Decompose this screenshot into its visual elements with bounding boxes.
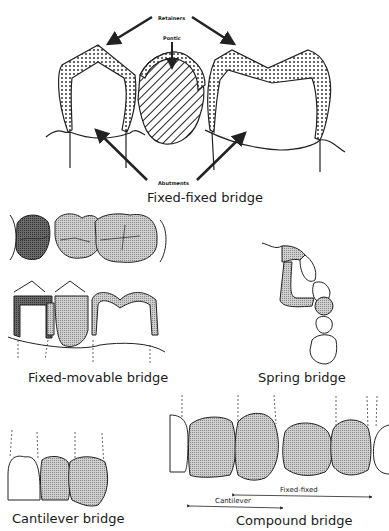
fixed-movable-occlusal-figure — [10, 214, 166, 263]
pontic-label: Pontic — [163, 35, 181, 41]
fixed-movable-caption: Fixed-movable bridge — [28, 370, 168, 385]
abutments-label: Abutments — [158, 180, 189, 186]
fixed-fixed-caption: Fixed-fixed bridge — [147, 190, 263, 205]
bridge-diagrams-canvas — [0, 0, 389, 531]
retainers-label: Retainers — [158, 15, 185, 21]
fixed-fixed-figure — [46, 17, 345, 180]
spring-caption: Spring bridge — [258, 370, 346, 385]
fixed-movable-side-figure — [8, 281, 165, 365]
compound-caption: Compound bridge — [236, 513, 352, 528]
cantilever-bridge-figure — [8, 430, 108, 506]
compound-fixed-fixed-label: Fixed-fixed — [280, 486, 318, 494]
spring-bridge-figure — [262, 243, 337, 364]
compound-cantilever-label: Cantilever — [215, 497, 251, 505]
cantilever-caption: Cantilever bridge — [12, 511, 124, 526]
